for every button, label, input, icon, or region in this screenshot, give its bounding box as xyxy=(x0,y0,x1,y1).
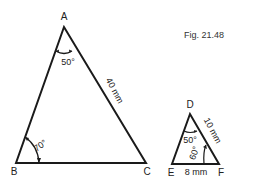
vertex-d-label: D xyxy=(186,99,193,110)
figure-canvas: A B C 50° 70° 40 mm D E F 50° 60° 10 mm … xyxy=(0,0,256,188)
angle-a-label: 50° xyxy=(61,57,75,67)
angle-f-label: 60° xyxy=(187,144,201,161)
side-ac-label: 40 mm xyxy=(104,76,126,105)
vertex-b-label: B xyxy=(11,166,18,177)
figure-caption: Fig. 21.48 xyxy=(184,30,224,40)
angle-d-label: 50° xyxy=(183,135,197,145)
angle-b-label: 70° xyxy=(32,137,49,153)
vertex-f-label: F xyxy=(218,167,224,178)
triangle-def: D E F 50° 60° 10 mm 8 mm xyxy=(168,99,224,178)
vertex-e-label: E xyxy=(168,167,175,178)
side-ef-label: 8 mm xyxy=(185,167,208,177)
vertex-c-label: C xyxy=(143,166,150,177)
vertex-a-label: A xyxy=(61,11,68,22)
triangle-abc: A B C 50° 70° 40 mm xyxy=(11,11,151,177)
